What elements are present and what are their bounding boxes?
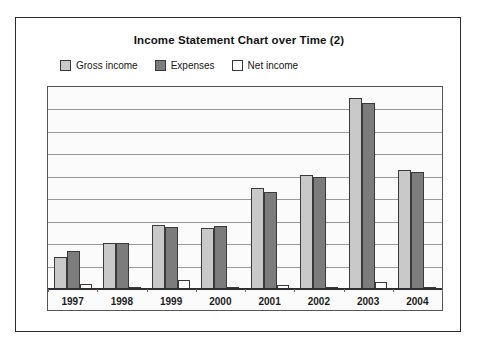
bars-layer bbox=[48, 87, 442, 289]
bar-2000-expenses[interactable] bbox=[214, 226, 227, 289]
x-axis-label-1999: 1999 bbox=[147, 296, 196, 307]
plot-area: 19971998199920002001200220032004 bbox=[47, 86, 443, 311]
plot-inner: 19971998199920002001200220032004 bbox=[48, 87, 442, 310]
bar-1998-expenses[interactable] bbox=[116, 243, 129, 289]
bar-1997-gross[interactable] bbox=[54, 257, 67, 289]
legend-swatch-icon bbox=[60, 60, 71, 71]
bar-2003-gross[interactable] bbox=[349, 98, 362, 289]
x-axis-tick bbox=[442, 289, 443, 292]
bar-1999-gross[interactable] bbox=[152, 225, 165, 289]
bar-2002-gross[interactable] bbox=[300, 175, 313, 289]
bar-1998-gross[interactable] bbox=[103, 243, 116, 289]
bar-group-2004 bbox=[393, 87, 442, 289]
bar-group-1997 bbox=[48, 87, 97, 289]
bar-2004-gross[interactable] bbox=[398, 170, 411, 289]
x-axis-label-2002: 2002 bbox=[294, 296, 343, 307]
bar-2001-gross[interactable] bbox=[251, 188, 264, 289]
legend-item-label: Gross income bbox=[76, 60, 138, 71]
bar-group-2001 bbox=[245, 87, 294, 289]
bar-2004-expenses[interactable] bbox=[411, 172, 424, 289]
bar-2001-expenses[interactable] bbox=[264, 192, 277, 289]
x-axis-label-2003: 2003 bbox=[344, 296, 393, 307]
legend-item-gross-income[interactable]: Gross income bbox=[60, 60, 138, 71]
legend-item-label: Net income bbox=[248, 60, 299, 71]
legend-swatch-icon bbox=[155, 60, 166, 71]
x-axis-label-2000: 2000 bbox=[196, 296, 245, 307]
legend-item-net-income[interactable]: Net income bbox=[232, 60, 299, 71]
legend-item-label: Expenses bbox=[171, 60, 215, 71]
bar-1997-expenses[interactable] bbox=[67, 251, 80, 289]
chart-card: Income Statement Chart over Time (2) Gro… bbox=[15, 17, 461, 332]
bar-group-1999 bbox=[147, 87, 196, 289]
x-axis-label-1997: 1997 bbox=[48, 296, 97, 307]
bar-group-1998 bbox=[97, 87, 146, 289]
bar-group-2002 bbox=[294, 87, 343, 289]
x-axis-label-2004: 2004 bbox=[393, 296, 442, 307]
x-axis-label-2001: 2001 bbox=[245, 296, 294, 307]
page-title: Income Statement Chart over Time (2) bbox=[16, 34, 462, 46]
x-axis-label-1998: 1998 bbox=[97, 296, 146, 307]
bar-1999-expenses[interactable] bbox=[165, 227, 178, 289]
legend-item-expenses[interactable]: Expenses bbox=[155, 60, 215, 71]
bar-2003-expenses[interactable] bbox=[362, 103, 375, 289]
bar-group-2000 bbox=[196, 87, 245, 289]
bar-2000-gross[interactable] bbox=[201, 228, 214, 289]
chart-legend: Gross income Expenses Net income bbox=[60, 60, 298, 71]
bar-group-2003 bbox=[344, 87, 393, 289]
legend-swatch-icon bbox=[232, 60, 243, 71]
bar-2002-expenses[interactable] bbox=[313, 177, 326, 289]
x-axis-labels: 19971998199920002001200220032004 bbox=[48, 291, 442, 311]
